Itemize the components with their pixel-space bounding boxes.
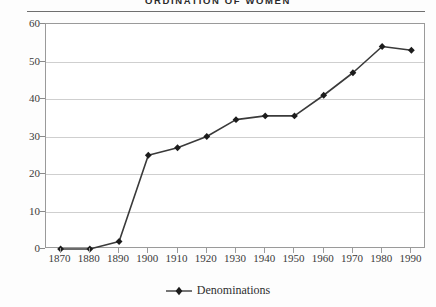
- y-tick-mark: [39, 211, 45, 212]
- x-tick-mark: [206, 248, 207, 253]
- data-point-marker: [174, 144, 181, 151]
- legend-label-denominations: Denominations: [197, 283, 270, 298]
- x-tick-mark: [293, 248, 294, 253]
- x-tick-mark: [235, 248, 236, 253]
- y-tick-label: 50: [2, 55, 40, 67]
- data-point-marker: [203, 133, 210, 140]
- chart-legend: Denominations: [0, 283, 436, 298]
- y-tick-label: 0: [2, 242, 40, 254]
- y-axis: 0102030405060: [0, 23, 40, 248]
- x-tick-mark: [177, 248, 178, 253]
- x-axis: 1870188018901900191019201930194019501960…: [45, 252, 425, 270]
- x-tick-label: 1990: [387, 252, 433, 264]
- title-divider: [27, 11, 425, 12]
- series-markers-denominations: [57, 43, 415, 252]
- x-tick-mark: [410, 248, 411, 253]
- x-tick-mark: [264, 248, 265, 253]
- x-tick-mark: [89, 248, 90, 253]
- y-tick-mark: [39, 173, 45, 174]
- data-point-marker: [116, 238, 123, 245]
- y-tick-label: 60: [2, 17, 40, 29]
- y-tick-label: 10: [2, 205, 40, 217]
- data-point-marker: [145, 152, 152, 159]
- data-point-marker: [233, 116, 240, 123]
- x-tick-mark: [60, 248, 61, 253]
- x-tick-mark: [381, 248, 382, 253]
- y-tick-mark: [39, 98, 45, 99]
- y-tick-mark: [39, 61, 45, 62]
- chart-figure: ORDINATION OF WOMEN 0102030405060 187018…: [0, 0, 436, 307]
- chart-title: ORDINATION OF WOMEN: [0, 0, 436, 6]
- x-tick-mark: [323, 248, 324, 253]
- data-point-marker: [262, 112, 269, 119]
- x-tick-mark: [352, 248, 353, 253]
- x-tick-mark: [118, 248, 119, 253]
- series-line-denominations: [61, 47, 412, 250]
- series-layer: [46, 24, 426, 249]
- legend-marker-icon: [166, 285, 192, 297]
- y-tick-label: 40: [2, 92, 40, 104]
- y-tick-label: 20: [2, 167, 40, 179]
- y-tick-mark: [39, 136, 45, 137]
- y-tick-label: 30: [2, 130, 40, 142]
- x-tick-mark: [147, 248, 148, 253]
- data-point-marker: [408, 47, 415, 54]
- plot-area: [45, 23, 425, 248]
- y-tick-mark: [39, 23, 45, 24]
- y-tick-mark: [39, 248, 45, 249]
